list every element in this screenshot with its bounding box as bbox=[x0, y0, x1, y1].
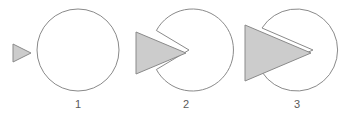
stage-2-label: 2 bbox=[176, 98, 196, 110]
stage-2-group bbox=[136, 9, 233, 91]
diagram-canvas: 1 2 3 bbox=[0, 0, 349, 118]
stage-3-wedge-triangle bbox=[245, 25, 311, 81]
stage-1-wedge-triangle bbox=[13, 44, 31, 62]
stage-3-label: 3 bbox=[287, 98, 307, 110]
stage-1-label: 1 bbox=[68, 98, 88, 110]
stage-1-group bbox=[13, 9, 119, 91]
stage-2-wedge-triangle bbox=[136, 32, 186, 74]
stage-1-circle bbox=[37, 9, 119, 91]
stage-3-group bbox=[245, 9, 338, 91]
